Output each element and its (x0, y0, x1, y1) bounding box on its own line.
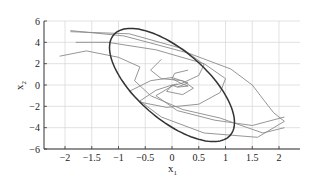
y-axis-label: x2 (13, 81, 28, 91)
phase-portrait-chart: −2−1.5−1−0.500.511.52 6420−2−4−6 x1 x2 (0, 0, 315, 182)
y-tick-label: −4 (29, 122, 40, 133)
x-tick-label: −1.5 (83, 152, 101, 163)
y-tick-label: −2 (29, 101, 40, 112)
x-tick-label: −0.5 (136, 152, 154, 163)
x-tick-label: −2 (60, 152, 71, 163)
x-tick-label: −1 (113, 152, 124, 163)
x-tick-label: 2 (277, 152, 282, 163)
trajectory-2 (76, 42, 226, 107)
x-tick-label: 1.5 (246, 152, 259, 163)
y-tick-label: 4 (35, 37, 40, 48)
y-tick-labels: 6420−2−4−6 (29, 16, 40, 155)
x-tick-label: 1 (223, 152, 228, 163)
y-tick-label: 2 (35, 58, 40, 69)
x-axis-label: x1 (168, 162, 178, 177)
y-tick-label: 6 (35, 16, 40, 27)
y-tick-label: −6 (29, 144, 40, 155)
x-tick-label: 0.5 (193, 152, 206, 163)
y-tick-label: 0 (35, 80, 40, 91)
